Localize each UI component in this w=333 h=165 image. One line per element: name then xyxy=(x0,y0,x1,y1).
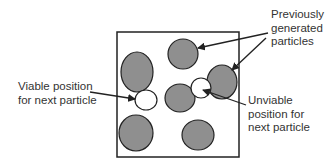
particle-diagram: Previously generated particles Viable po… xyxy=(0,0,333,165)
label-unviable: Unviable position for next particle xyxy=(248,94,310,135)
viable-candidate-circle xyxy=(135,90,157,110)
label-previously-generated: Previously generated particles xyxy=(271,8,324,49)
particle-circle xyxy=(121,52,153,92)
label-line: next particle xyxy=(248,121,310,135)
particle-circle xyxy=(119,115,153,151)
unviable-candidate-circle xyxy=(191,78,211,98)
arrow-previous-2 xyxy=(232,38,266,70)
particle-circle xyxy=(168,39,198,69)
particle-circle xyxy=(182,120,214,150)
label-line: Unviable xyxy=(248,94,310,108)
label-line: Previously xyxy=(271,8,324,22)
label-line: for next particle xyxy=(18,94,97,108)
label-line: generated xyxy=(271,22,324,36)
label-line: Viable position xyxy=(18,80,97,94)
label-viable: Viable position for next particle xyxy=(18,80,97,107)
label-line: particles xyxy=(271,35,324,49)
label-line: position for xyxy=(248,108,310,122)
arrow-viable xyxy=(90,92,135,99)
